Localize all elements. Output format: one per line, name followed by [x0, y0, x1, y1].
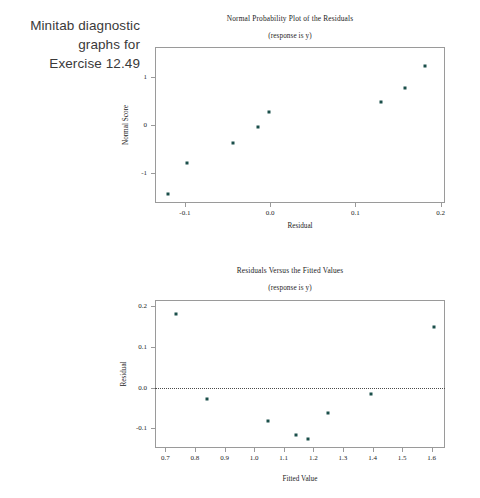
y-axis-tick: [151, 173, 155, 174]
x-axis-tick: [441, 203, 442, 207]
data-point-marker: [380, 100, 383, 103]
y-axis-tick-label: -1: [125, 169, 147, 177]
y-axis-tick: [151, 428, 155, 429]
plot-area: [155, 47, 445, 203]
x-axis-tick: [432, 448, 433, 452]
x-axis-tick: [373, 448, 374, 452]
data-point-marker: [424, 64, 427, 67]
residuals-versus-fitted-values-figure: Residuals Versus the Fitted Values (resp…: [110, 262, 470, 492]
data-point-marker: [403, 86, 406, 89]
y-axis-tick-label: 0: [125, 121, 147, 129]
data-point-marker: [327, 411, 330, 414]
x-axis-tick: [284, 448, 285, 452]
y-axis-tick-label: -0.1: [125, 424, 147, 432]
x-axis-title: Residual: [287, 222, 312, 230]
y-axis-tick-label: 0.1: [125, 343, 147, 351]
zero-reference-line: [155, 388, 445, 389]
x-axis-tick-label: 0.9: [220, 454, 229, 462]
data-point-marker: [432, 325, 435, 328]
x-axis-tick-label: 0.7: [161, 454, 170, 462]
x-axis-tick: [270, 203, 271, 207]
x-axis-tick-label: -0.1: [179, 209, 190, 217]
x-axis-tick-label: 1.3: [339, 454, 348, 462]
x-axis-tick: [195, 448, 196, 452]
data-point-marker: [257, 125, 260, 128]
x-axis-tick-label: 1.4: [368, 454, 377, 462]
x-axis-tick-label: 1.5: [398, 454, 407, 462]
data-point-marker: [268, 111, 271, 114]
chart-subtitle: (response is y): [110, 284, 470, 292]
x-axis-tick-label: 1.1: [279, 454, 288, 462]
x-axis-tick: [165, 448, 166, 452]
x-axis-tick-label: 0.2: [436, 209, 445, 217]
data-point-marker: [166, 192, 169, 195]
x-axis-tick-label: 1.2: [309, 454, 318, 462]
data-point-marker: [266, 420, 269, 423]
chart-title: Residuals Versus the Fitted Values: [110, 266, 470, 275]
x-axis-tick: [185, 203, 186, 207]
x-axis-tick-label: 1.0: [250, 454, 259, 462]
x-axis-tick: [254, 448, 255, 452]
data-point-marker: [186, 161, 189, 164]
chart-subtitle: (response is y): [110, 32, 470, 40]
data-point-marker: [370, 393, 373, 396]
y-axis-tick-label: 0.2: [125, 302, 147, 310]
data-point-marker: [205, 398, 208, 401]
plot-area: [155, 300, 445, 448]
x-axis-tick: [402, 448, 403, 452]
x-axis-tick-label: 0.1: [351, 209, 360, 217]
data-point-marker: [175, 313, 178, 316]
data-point-marker: [232, 141, 235, 144]
x-axis-tick-label: 0.0: [266, 209, 275, 217]
x-axis-title: Fitted Value: [283, 475, 318, 483]
x-axis-tick-label: 0.8: [191, 454, 200, 462]
normal-probability-plot-figure: Normal Probability Plot of the Residuals…: [110, 10, 470, 235]
x-axis-tick-label: 1.6: [427, 454, 436, 462]
y-axis-tick: [151, 347, 155, 348]
y-axis-tick: [151, 306, 155, 307]
x-axis-tick: [355, 203, 356, 207]
y-axis-tick-label: 1: [125, 73, 147, 81]
x-axis-tick: [343, 448, 344, 452]
chart-title: Normal Probability Plot of the Residuals: [110, 14, 470, 23]
y-axis-tick-label: 0.0: [125, 384, 147, 392]
x-axis-tick: [313, 448, 314, 452]
y-axis-tick: [151, 77, 155, 78]
data-point-marker: [306, 438, 309, 441]
y-axis-tick: [151, 125, 155, 126]
x-axis-tick: [225, 448, 226, 452]
data-point-marker: [295, 433, 298, 436]
